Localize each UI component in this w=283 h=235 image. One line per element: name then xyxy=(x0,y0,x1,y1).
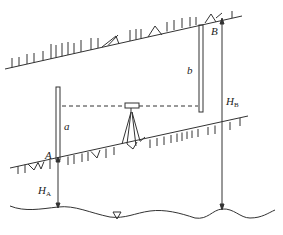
label-height-a-sub: A xyxy=(46,190,51,198)
datum-symbol-icon xyxy=(113,212,121,219)
label-height-a: HA xyxy=(38,185,51,198)
label-point-a: A xyxy=(45,150,52,161)
height-b-arrow xyxy=(220,18,224,210)
label-reading-a: a xyxy=(64,121,70,132)
label-reading-b: b xyxy=(187,65,193,76)
leveling-diagram: B b HB a A HA xyxy=(0,0,283,235)
label-height-b-sub: B xyxy=(234,101,239,109)
upper-ground-surface xyxy=(5,11,242,69)
label-height-b: HB xyxy=(226,96,239,109)
height-a-arrow xyxy=(56,157,60,208)
label-point-b: B xyxy=(211,26,218,37)
water-surface xyxy=(10,206,275,218)
diagram-canvas xyxy=(0,0,283,235)
level-instrument xyxy=(122,103,140,146)
label-height-b-main: H xyxy=(226,95,234,107)
label-height-a-main: H xyxy=(38,184,46,196)
staff-b xyxy=(199,25,203,112)
staff-a xyxy=(56,87,60,160)
